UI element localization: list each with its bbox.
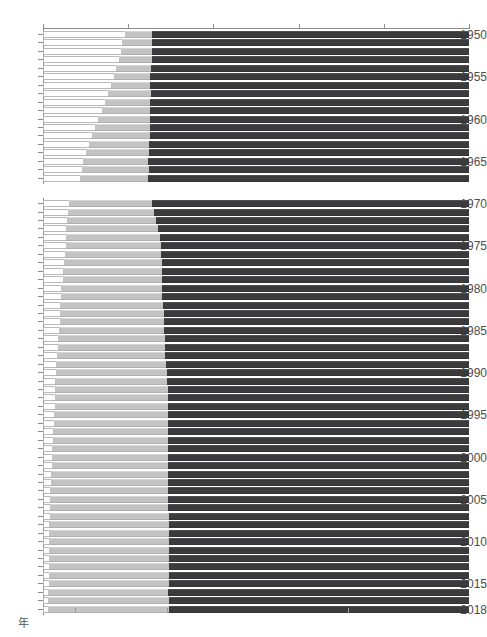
bar-segment-tertiary bbox=[168, 420, 469, 427]
bar-segment-primary bbox=[43, 200, 69, 207]
bar-segment-tertiary bbox=[168, 428, 469, 435]
bar-segment-secondary bbox=[49, 547, 169, 554]
bar-segment-secondary bbox=[111, 82, 151, 89]
bar-row bbox=[43, 225, 469, 232]
bar-segment-secondary bbox=[61, 293, 162, 300]
bar-segment-tertiary bbox=[167, 369, 469, 376]
bar-segment-primary bbox=[43, 513, 50, 520]
bar-segment-tertiary bbox=[168, 479, 469, 486]
bar-row bbox=[43, 124, 469, 131]
bar-segment-primary bbox=[43, 48, 121, 55]
bar-segment-secondary bbox=[49, 538, 169, 545]
bar-row bbox=[43, 73, 469, 80]
bar-segment-secondary bbox=[58, 335, 165, 342]
bar-segment-tertiary bbox=[165, 335, 469, 342]
bar-segment-tertiary bbox=[166, 361, 469, 368]
bar-segment-primary bbox=[43, 285, 61, 292]
bar-segment-secondary bbox=[49, 580, 169, 587]
bar-segment-tertiary bbox=[162, 276, 469, 283]
bar-segment-secondary bbox=[48, 597, 169, 604]
bar-segment-secondary bbox=[55, 403, 169, 410]
bar-segment-tertiary bbox=[150, 107, 469, 114]
bar-segment-primary bbox=[43, 268, 63, 275]
bar-segment-secondary bbox=[55, 378, 167, 385]
bar-segment-primary bbox=[43, 428, 53, 435]
bar-segment-primary bbox=[43, 445, 52, 452]
bar-segment-tertiary bbox=[163, 302, 469, 309]
bar-row bbox=[43, 149, 469, 156]
bar-segment-tertiary bbox=[168, 411, 469, 418]
bar-segment-tertiary bbox=[148, 175, 469, 182]
bar-segment-secondary bbox=[50, 496, 168, 503]
bar-segment-primary bbox=[43, 65, 116, 72]
bar-segment-secondary bbox=[64, 259, 162, 266]
bar-row bbox=[43, 428, 469, 435]
bar-segment-tertiary bbox=[167, 378, 469, 385]
bar-row bbox=[43, 394, 469, 401]
bar-segment-primary bbox=[43, 437, 53, 444]
bar-segment-primary bbox=[43, 132, 92, 139]
bar-segment-secondary bbox=[51, 479, 168, 486]
bar-segment-tertiary bbox=[168, 471, 469, 478]
bar-segment-primary bbox=[43, 386, 55, 393]
bar-segment-secondary bbox=[83, 158, 148, 165]
bar-segment-tertiary bbox=[164, 310, 469, 317]
bar-segment-tertiary bbox=[169, 563, 469, 570]
bar-segment-tertiary bbox=[164, 318, 469, 325]
bar-row bbox=[43, 369, 469, 376]
bar-row bbox=[43, 580, 469, 587]
bar-segment-tertiary bbox=[169, 547, 469, 554]
bar-row bbox=[43, 302, 469, 309]
bar-segment-primary bbox=[43, 352, 57, 359]
bar-row bbox=[43, 555, 469, 562]
bar-segment-tertiary bbox=[169, 530, 469, 537]
bar-segment-tertiary bbox=[156, 217, 469, 224]
bar-segment-tertiary bbox=[161, 242, 469, 249]
bar-segment-secondary bbox=[86, 149, 149, 156]
bar-segment-tertiary bbox=[169, 555, 469, 562]
bar-segment-primary bbox=[43, 99, 105, 106]
bar-segment-tertiary bbox=[150, 132, 469, 139]
bar-segment-secondary bbox=[119, 56, 152, 63]
bar-segment-secondary bbox=[66, 225, 158, 232]
bar-segment-secondary bbox=[50, 504, 168, 511]
bar-row bbox=[43, 386, 469, 393]
bottom-axis-tick-mark bbox=[75, 608, 76, 613]
bar-row bbox=[43, 462, 469, 469]
bar-segment-primary bbox=[43, 116, 98, 123]
bar-row bbox=[43, 141, 469, 148]
bar-segment-tertiary bbox=[162, 285, 469, 292]
bar-segment-tertiary bbox=[161, 251, 469, 258]
bar-segment-secondary bbox=[89, 141, 149, 148]
bar-row bbox=[43, 479, 469, 486]
bar-segment-primary bbox=[43, 276, 63, 283]
bar-row bbox=[43, 234, 469, 241]
bar-segment-secondary bbox=[95, 124, 150, 131]
bar-row bbox=[43, 335, 469, 342]
bar-segment-primary bbox=[43, 251, 65, 258]
bar-segment-secondary bbox=[56, 369, 167, 376]
bar-row bbox=[43, 285, 469, 292]
bar-segment-primary bbox=[43, 82, 111, 89]
bar-row bbox=[43, 496, 469, 503]
bar-segment-tertiary bbox=[165, 352, 469, 359]
bar-segment-secondary bbox=[49, 572, 169, 579]
bar-row bbox=[43, 547, 469, 554]
bar-row bbox=[43, 90, 469, 97]
bar-segment-secondary bbox=[125, 31, 152, 38]
bar-segment-primary bbox=[43, 479, 51, 486]
bar-segment-secondary bbox=[53, 437, 168, 444]
bar-segment-primary bbox=[43, 175, 80, 182]
bar-segment-secondary bbox=[108, 90, 151, 97]
bar-segment-tertiary bbox=[164, 327, 469, 334]
bar-segment-secondary bbox=[68, 209, 154, 216]
bar-segment-primary bbox=[43, 369, 56, 376]
bar-segment-tertiary bbox=[165, 344, 469, 351]
bar-segment-primary bbox=[43, 166, 82, 173]
bar-segment-tertiary bbox=[169, 513, 469, 520]
bar-segment-primary bbox=[43, 73, 114, 80]
bar-segment-secondary bbox=[49, 555, 169, 562]
bar-row bbox=[43, 48, 469, 55]
bar-row bbox=[43, 56, 469, 63]
bar-segment-primary bbox=[43, 39, 122, 46]
